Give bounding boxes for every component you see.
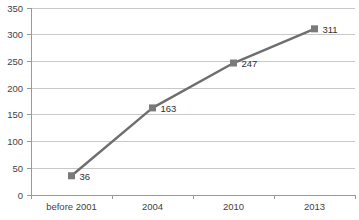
data-point-label: 163 — [161, 103, 177, 114]
x-axis-tick-label: before 2001 — [46, 201, 97, 212]
x-axis-tick-label: 2013 — [304, 201, 325, 212]
data-point-marker — [149, 104, 156, 111]
y-axis-tick-label: 50 — [12, 163, 23, 174]
y-axis-tick-label: 200 — [7, 83, 23, 94]
y-axis-tick-label: 300 — [7, 29, 23, 40]
y-axis-tick-label: 250 — [7, 56, 23, 67]
x-axis-tick-label: 2010 — [223, 201, 244, 212]
chart-canvas: 050100150200250300350 before 20012004201… — [0, 0, 359, 220]
data-point-label: 247 — [242, 58, 258, 69]
data-point-label: 36 — [80, 171, 91, 182]
data-point-marker — [68, 172, 75, 179]
y-axis-tick-label: 0 — [18, 190, 23, 201]
y-axis-tick-label: 100 — [7, 136, 23, 147]
data-point-label: 311 — [323, 24, 338, 35]
line-chart: 050100150200250300350 before 20012004201… — [0, 0, 359, 220]
data-point-marker — [230, 60, 237, 67]
y-axis-tick-label: 150 — [7, 109, 23, 120]
x-axis-tick-label: 2004 — [142, 201, 163, 212]
y-axis-tick-label: 350 — [7, 3, 23, 14]
data-point-marker — [311, 25, 318, 32]
